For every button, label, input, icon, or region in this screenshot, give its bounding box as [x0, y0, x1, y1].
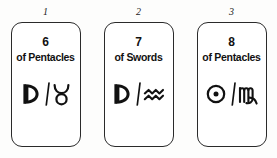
card-correspondence-3 [198, 79, 266, 109]
card-position-number-3: 3 [229, 6, 234, 19]
card-rank-2: 7 [135, 36, 141, 49]
card-slot-2: 2 7 of Swords [104, 6, 174, 147]
separator-slash-3 [228, 81, 237, 107]
sun-symbol-icon [205, 81, 227, 107]
card-correspondence-2 [105, 79, 173, 109]
tarot-card-3[interactable]: 8 of Pentacles [197, 22, 267, 147]
card-rank-1: 6 [42, 36, 48, 49]
card-suit-1: of Pentacles [16, 51, 74, 63]
virgo-symbol-icon [238, 81, 259, 107]
separator-slash-2 [133, 81, 142, 107]
separator-slash-1 [42, 81, 51, 107]
card-position-number-2: 2 [136, 6, 141, 19]
card-correspondence-1 [12, 79, 80, 109]
aquarius-symbol-icon [143, 81, 165, 107]
moon-symbol-icon [21, 81, 41, 107]
card-slot-3: 3 8 of Pentacles [197, 6, 267, 147]
tarot-spread: 1 6 of Pentacles [0, 0, 277, 158]
tarot-card-2[interactable]: 7 of Swords [104, 22, 174, 147]
moon-symbol-icon [112, 81, 132, 107]
card-suit-2: of Swords [114, 51, 162, 63]
card-slot-1: 1 6 of Pentacles [11, 6, 81, 147]
tarot-card-1[interactable]: 6 of Pentacles [11, 22, 81, 147]
card-rank-3: 8 [228, 36, 234, 49]
taurus-symbol-icon [52, 81, 71, 107]
card-suit-3: of Pentacles [202, 51, 260, 63]
card-position-number-1: 1 [43, 6, 48, 19]
